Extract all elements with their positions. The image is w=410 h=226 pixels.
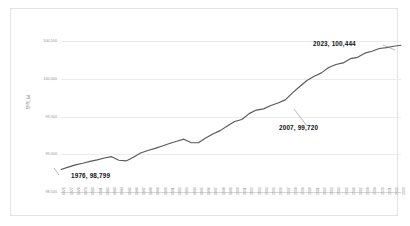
x-tick-label: 2022 <box>395 187 399 195</box>
plot-area: 100,500 100,000 99,500 99,000 98,500 <box>61 41 401 192</box>
x-tick-label: 2003 <box>258 187 262 195</box>
x-tick-label: 1986 <box>135 187 139 195</box>
y-tick-label: 100,500 <box>17 39 57 43</box>
x-tick-label: 2001 <box>243 187 247 195</box>
x-tick-label: 2016 <box>352 187 356 195</box>
x-tick-label: 2021 <box>388 187 392 195</box>
x-tick-label: 1987 <box>142 187 146 195</box>
y-tick-label: 98,500 <box>17 190 57 194</box>
data-line <box>61 41 401 192</box>
x-tick-label: 1999 <box>229 187 233 195</box>
x-tick-label: 2005 <box>272 187 276 195</box>
x-tick-label: 1981 <box>99 187 103 195</box>
x-tick-label: 2013 <box>330 187 334 195</box>
x-tick-label: 2019 <box>373 187 377 195</box>
x-tick-label: 1984 <box>120 187 124 195</box>
annotation-mid: 2007, 99,720 <box>279 124 318 131</box>
x-tick-label: 1991 <box>171 187 175 195</box>
x-tick-label: 1997 <box>214 187 218 195</box>
y-tick-label: 99,500 <box>17 115 57 119</box>
x-tick-label: 1989 <box>156 187 160 195</box>
x-tick-label: 1985 <box>128 187 132 195</box>
y-tick-label: 99,000 <box>17 152 57 156</box>
x-tick-label: 2009 <box>301 187 305 195</box>
x-tick-label: 1988 <box>149 187 153 195</box>
x-tick-label: 2014 <box>337 187 341 195</box>
x-tick-label: 1979 <box>84 187 88 195</box>
x-tick-label: 1978 <box>77 187 81 195</box>
x-tick-label: 1983 <box>113 187 117 195</box>
x-tick-label: 2004 <box>265 187 269 195</box>
x-tick-label: 2023 <box>402 187 406 195</box>
x-tick-label: 2017 <box>359 187 363 195</box>
x-tick-label: 2018 <box>366 187 370 195</box>
x-tick-label: 2012 <box>323 187 327 195</box>
x-tick-label: 2006 <box>279 187 283 195</box>
x-tick-label: 1994 <box>193 187 197 195</box>
x-tick-label: 2015 <box>345 187 349 195</box>
x-tick-label: 2000 <box>236 187 240 195</box>
annotation-start: 1976, 98,799 <box>71 172 110 179</box>
x-tick-label: 1982 <box>106 187 110 195</box>
x-tick-label: 2010 <box>308 187 312 195</box>
x-tick-label: 2008 <box>294 187 298 195</box>
x-tick-label: 1977 <box>70 187 74 195</box>
chart-frame: 면적, ㎢ 100,500 100,000 99,500 99,000 98,5… <box>10 8 398 216</box>
x-tick-label: 2011 <box>316 187 320 195</box>
x-tick-label: 1990 <box>164 187 168 195</box>
x-tick-label: 1993 <box>185 187 189 195</box>
x-tick-label: 1980 <box>91 187 95 195</box>
x-tick-label: 1995 <box>200 187 204 195</box>
x-tick-label: 1998 <box>222 187 226 195</box>
x-tick-label: 2020 <box>381 187 385 195</box>
y-axis-title: 면적, ㎢ <box>25 95 31 109</box>
x-tick-label: 1976 <box>62 187 66 195</box>
annotation-end: 2023, 100,444 <box>313 40 356 47</box>
x-tick-label: 2002 <box>250 187 254 195</box>
x-tick-label: 1992 <box>178 187 182 195</box>
x-tick-label: 2007 <box>287 187 291 195</box>
x-tick-label: 1996 <box>207 187 211 195</box>
y-tick-label: 100,000 <box>17 77 57 81</box>
